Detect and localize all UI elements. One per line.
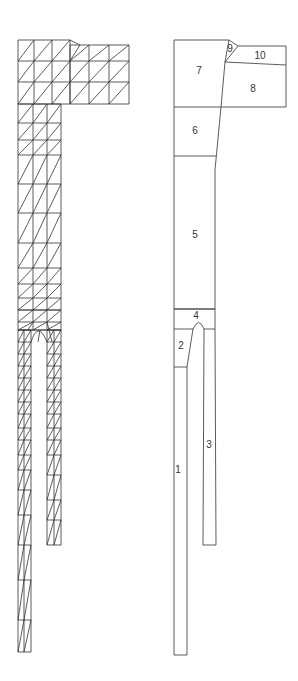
region-label-7: 7: [196, 65, 202, 76]
region-label-5: 5: [192, 229, 198, 240]
region-label-4: 4: [193, 310, 199, 321]
region-label-6: 6: [192, 125, 198, 136]
region-label-2: 2: [178, 340, 184, 351]
region-label-8: 8: [250, 83, 256, 94]
region-label-10: 10: [254, 50, 266, 61]
region-label-1: 1: [175, 464, 181, 475]
triangular-mesh: [18, 40, 129, 652]
diagram-canvas: 12345678910: [0, 0, 298, 681]
region-label-3: 3: [206, 439, 212, 450]
region-label-9: 9: [227, 43, 233, 54]
region-partition: [174, 40, 286, 655]
